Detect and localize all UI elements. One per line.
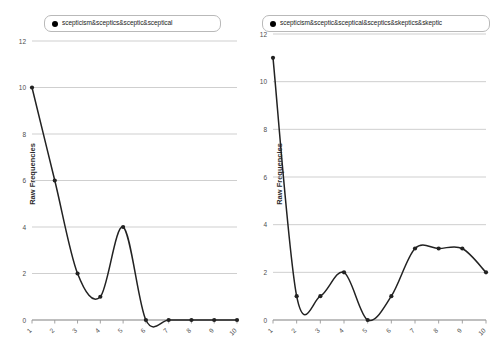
legend-label-right: scepticism&sceptic&sceptical&sceptics&sk… bbox=[280, 20, 442, 27]
x-tick-label: 7 bbox=[408, 326, 416, 334]
x-tick-label: 10 bbox=[477, 326, 487, 336]
data-point-marker bbox=[437, 246, 441, 250]
legend-marker-icon bbox=[52, 21, 58, 27]
x-tick-label: 9 bbox=[207, 326, 215, 334]
data-point-marker bbox=[189, 318, 193, 322]
x-tick-label: 5 bbox=[361, 326, 369, 334]
data-point-marker bbox=[413, 246, 417, 250]
data-point-marker bbox=[318, 294, 322, 298]
x-tick-label: 2 bbox=[48, 326, 56, 334]
dual-line-chart-figure: scepticism&sceptics&sceptic&sceptical Ra… bbox=[0, 0, 499, 348]
data-point-marker bbox=[53, 178, 57, 182]
y-tick-label: 10 bbox=[19, 84, 27, 91]
data-point-marker bbox=[98, 295, 102, 299]
data-point-marker bbox=[144, 318, 148, 322]
data-point-marker bbox=[389, 294, 393, 298]
y-tick-label: 2 bbox=[22, 270, 26, 277]
y-tick-label: 2 bbox=[263, 269, 267, 276]
y-tick-label: 12 bbox=[19, 38, 27, 45]
y-tick-label: 0 bbox=[263, 317, 267, 324]
y-tick-label: 8 bbox=[22, 131, 26, 138]
y-tick-label: 6 bbox=[263, 174, 267, 181]
x-tick-label: 3 bbox=[314, 326, 322, 334]
data-point-marker bbox=[235, 318, 239, 322]
y-tick-label: 4 bbox=[22, 224, 26, 231]
x-tick-label: 3 bbox=[71, 326, 79, 334]
data-point-marker bbox=[295, 294, 299, 298]
x-tick-label: 4 bbox=[94, 326, 102, 334]
legend-left[interactable]: scepticism&sceptics&sceptic&sceptical bbox=[44, 15, 221, 32]
chart-panel-left: scepticism&sceptics&sceptic&sceptical Ra… bbox=[0, 0, 249, 348]
y-tick-label: 6 bbox=[22, 177, 26, 184]
x-tick-label: 6 bbox=[385, 326, 393, 334]
y-tick-label: 8 bbox=[263, 126, 267, 133]
chart-panel-right: scepticism&sceptic&sceptical&sceptics&sk… bbox=[249, 0, 499, 348]
plot-area-right: 02468101212345678910 bbox=[249, 0, 499, 348]
data-line bbox=[273, 58, 486, 321]
data-point-marker bbox=[484, 270, 488, 274]
x-tick-label: 5 bbox=[116, 326, 124, 334]
x-tick-label: 8 bbox=[185, 326, 193, 334]
data-line bbox=[32, 88, 237, 327]
y-tick-label: 10 bbox=[260, 78, 268, 85]
x-tick-label: 10 bbox=[228, 326, 238, 336]
data-point-marker bbox=[121, 225, 125, 229]
x-tick-label: 8 bbox=[432, 326, 440, 334]
legend-marker-icon bbox=[270, 21, 276, 27]
x-tick-label: 9 bbox=[456, 326, 464, 334]
legend-right[interactable]: scepticism&sceptic&sceptical&sceptics&sk… bbox=[262, 15, 490, 32]
data-point-marker bbox=[366, 318, 370, 322]
data-point-marker bbox=[212, 318, 216, 322]
legend-label-left: scepticism&sceptics&sceptic&sceptical bbox=[62, 20, 173, 27]
x-tick-label: 4 bbox=[337, 326, 345, 334]
x-tick-label: 1 bbox=[266, 326, 274, 334]
x-tick-label: 1 bbox=[25, 326, 33, 334]
plot-area-left: 02468101212345678910 bbox=[0, 0, 249, 348]
data-point-marker bbox=[271, 56, 275, 60]
y-tick-label: 0 bbox=[22, 317, 26, 324]
data-point-marker bbox=[460, 246, 464, 250]
data-point-marker bbox=[75, 271, 79, 275]
x-tick-label: 2 bbox=[290, 326, 298, 334]
x-tick-label: 7 bbox=[162, 326, 170, 334]
data-point-marker bbox=[30, 85, 34, 89]
data-point-marker bbox=[342, 270, 346, 274]
data-point-marker bbox=[167, 318, 171, 322]
x-tick-label: 6 bbox=[139, 326, 147, 334]
y-tick-label: 4 bbox=[263, 221, 267, 228]
